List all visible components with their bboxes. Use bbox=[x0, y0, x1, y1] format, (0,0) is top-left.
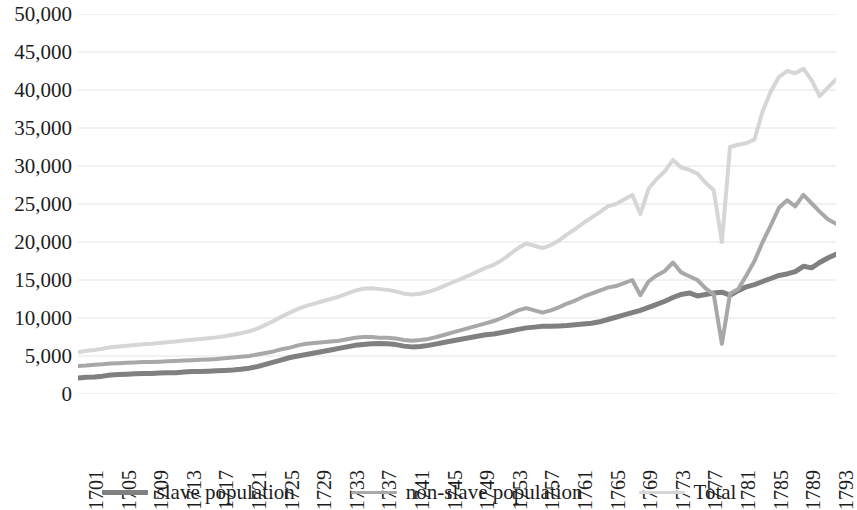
legend-item-non-slave-population[interactable]: non-slave population bbox=[351, 482, 583, 503]
legend-item-total[interactable]: Total bbox=[639, 482, 737, 503]
legend-label: slave population bbox=[157, 482, 295, 503]
y-axis-tick-label: 45,000 bbox=[14, 42, 72, 63]
y-axis-tick-label: 50,000 bbox=[14, 4, 72, 25]
slave-population-swatch bbox=[102, 490, 148, 495]
y-axis-tick-label: 30,000 bbox=[14, 156, 72, 177]
y-axis-tick-label: 40,000 bbox=[14, 80, 72, 101]
x-axis-tick-label: 1793 bbox=[836, 470, 856, 510]
chart-legend: slave population non-slave population To… bbox=[0, 478, 838, 506]
x-axis: 1701170517091713171717211725172917331737… bbox=[78, 398, 836, 478]
y-axis-tick-label: 10,000 bbox=[14, 308, 72, 329]
legend-label: Total bbox=[694, 482, 737, 503]
series-line bbox=[78, 69, 836, 352]
y-axis-tick-label: 35,000 bbox=[14, 118, 72, 139]
non-slave-population-swatch bbox=[351, 491, 397, 494]
y-axis-tick-label: 20,000 bbox=[14, 232, 72, 253]
legend-item-slave-population[interactable]: slave population bbox=[102, 482, 295, 503]
y-axis: 05,00010,00015,00020,00025,00030,00035,0… bbox=[0, 0, 72, 410]
y-axis-tick-label: 25,000 bbox=[14, 194, 72, 215]
plot-area bbox=[78, 14, 836, 394]
y-axis-tick-label: 15,000 bbox=[14, 270, 72, 291]
y-axis-tick-label: 5,000 bbox=[25, 346, 72, 367]
legend-label: non-slave population bbox=[406, 482, 583, 503]
total-swatch bbox=[639, 491, 685, 494]
y-axis-tick-label: 0 bbox=[62, 384, 73, 405]
